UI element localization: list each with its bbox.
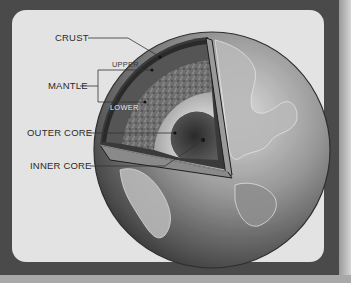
label-mantle-upper: UPPER bbox=[112, 61, 139, 69]
label-mantle-lower: LOWER bbox=[110, 104, 139, 112]
label-outer-core: OUTER CORE bbox=[27, 128, 92, 138]
label-mantle: MANTLE bbox=[48, 81, 88, 91]
label-crust: CRUST bbox=[55, 33, 89, 43]
label-inner-core: INNER CORE bbox=[30, 161, 92, 171]
diagram-stage: CRUST MANTLE UPPER LOWER OUTER CORE INNE… bbox=[0, 0, 351, 283]
earth-cutaway-illustration bbox=[0, 0, 351, 283]
